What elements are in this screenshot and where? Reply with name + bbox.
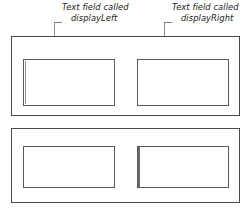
callout-left-line1: Text field called [62,2,129,13]
callout-right-line2: displayRight [172,13,239,24]
leader-right-elbow [164,22,172,23]
text-field-display-right[interactable] [137,59,229,106]
callout-left-line2: displayLeft [62,13,129,24]
callout-label-display-left: Text field called displayLeft [62,2,129,23]
callout-label-display-right: Text field called displayRight [172,2,239,23]
annotated-form-diagram: Text field called displayLeft Text field… [0,0,250,211]
form-panel-bottom [11,128,240,203]
leader-left-elbow [54,22,62,23]
callout-right-line1: Text field called [172,2,239,13]
form-panel-top [11,36,240,116]
text-field-bottom-right[interactable] [137,146,229,188]
text-field-display-left[interactable] [23,59,115,106]
text-field-bottom-left[interactable] [23,146,115,188]
